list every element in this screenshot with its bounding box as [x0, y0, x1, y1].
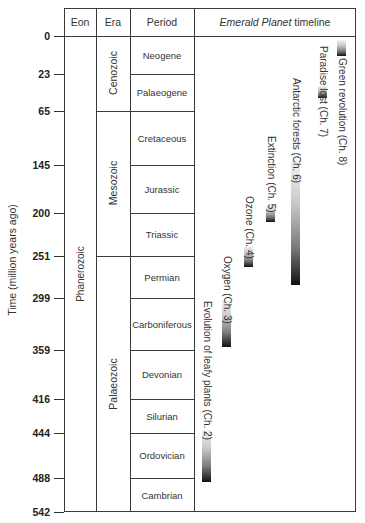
event-label-oxygen: Oxygen (Ch. 3) — [222, 256, 233, 324]
header-divider — [64, 36, 356, 37]
tick-label: 488 — [0, 472, 50, 484]
tick-mark — [54, 478, 64, 479]
tick-label: 23 — [0, 68, 50, 80]
tick-label: 444 — [0, 427, 50, 439]
tick-label: 200 — [0, 207, 50, 219]
period-carboniferous: Carboniferous — [130, 298, 194, 350]
era-cenozoic: Cenozoic — [107, 51, 119, 95]
header-timeline-suffix: timeline — [291, 16, 330, 28]
tick-label: 145 — [0, 159, 50, 171]
period-devonian: Devonian — [130, 350, 194, 399]
eon-era-divider — [96, 8, 97, 512]
header-timeline-title: Emerald Planet — [220, 16, 292, 28]
tick-label: 0 — [0, 30, 50, 42]
event-label-paradise-lost: Paradise lost (Ch. 7) — [318, 46, 329, 137]
tick-label: 416 — [0, 393, 50, 405]
tick-label: 359 — [0, 344, 50, 356]
period-cretaceous: Cretaceous — [130, 111, 194, 165]
tick-label: 65 — [0, 105, 50, 117]
period-neogene: Neogene — [130, 36, 194, 74]
tick-mark — [54, 256, 64, 257]
era-mesozoic: Mesozoic — [107, 161, 119, 205]
tick-label: 542 — [0, 506, 50, 518]
tick-mark — [54, 433, 64, 434]
header-timeline: Emerald Planet timeline — [194, 8, 356, 36]
period-silurian: Silurian — [130, 399, 194, 433]
event-label-ozone: Ozone (Ch. 4) — [244, 196, 255, 259]
tick-label: 251 — [0, 250, 50, 262]
header-period: Period — [130, 8, 194, 36]
era-palaeozoic: Palaeozoic — [107, 358, 119, 409]
tick-mark — [54, 512, 64, 513]
tick-mark — [54, 36, 64, 37]
period-permian: Permian — [130, 256, 194, 298]
period-triassic: Triassic — [130, 213, 194, 256]
period-cambrian: Cambrian — [130, 478, 194, 512]
tick-mark — [54, 399, 64, 400]
period-palaeogene: Palaeogene — [130, 74, 194, 111]
tick-label: 299 — [0, 292, 50, 304]
event-label-extinction: Extinction (Ch. 5) — [266, 136, 277, 213]
eon-phanerozoic: Phanerozoic — [75, 246, 86, 302]
header-era: Era — [96, 8, 130, 36]
tick-mark — [54, 165, 64, 166]
tick-mark — [54, 350, 64, 351]
event-bar-green-revolution — [337, 40, 346, 56]
tick-mark — [54, 74, 64, 75]
period-ordovician: Ordovician — [130, 433, 194, 478]
tick-mark — [54, 213, 64, 214]
tick-mark — [54, 298, 64, 299]
header-eon: Eon — [64, 8, 96, 36]
era-boundary — [96, 111, 130, 112]
era-boundary — [96, 256, 130, 257]
tick-mark — [54, 111, 64, 112]
period-timeline-divider — [194, 8, 195, 512]
event-label-green-revolution: Green revolution (Ch. 8) — [337, 58, 348, 165]
event-label-evolution-leafy-plants: Evolution of leafy plants (Ch. 2) — [202, 301, 213, 440]
period-jurassic: Jurassic — [130, 165, 194, 213]
event-label-antarctic-forests: Antarctic forests (Ch. 6) — [291, 78, 302, 183]
